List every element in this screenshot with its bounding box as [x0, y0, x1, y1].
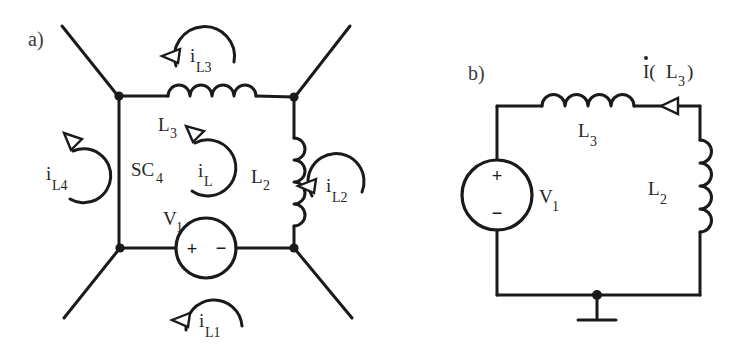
v1-plus-sign-panel-a: +: [187, 239, 198, 259]
branch-current-il3-suffix: ): [687, 61, 693, 83]
current-il2-subscript: L2: [332, 190, 348, 205]
v1-label-panel-b: V: [539, 186, 553, 207]
wire-top-right-segment: [256, 96, 294, 97]
lead-bottom-left: [64, 248, 120, 318]
current-il3-symbol: i: [190, 45, 195, 66]
current-il1-arrowhead: [172, 313, 190, 327]
branch-current-il3-marker: [661, 98, 678, 114]
inductor-l2-coils-panel-a: [294, 138, 305, 226]
branch-current-il3-prefix: I(: [643, 61, 656, 83]
inductor-l3-coils-panel-b: [542, 95, 634, 107]
figure-canvas: a) + − V 1 L 3 L 2: [0, 0, 740, 350]
node-bottom-left: [115, 243, 124, 252]
node-bottom-right: [289, 243, 298, 252]
current-loop-il1: i L1: [172, 300, 242, 340]
branch-current-il3-label: I( L 3 ): [643, 56, 693, 89]
current-il3-subscript: L3: [196, 60, 212, 75]
lead-top-left: [62, 26, 118, 96]
inductor-l3-coils-panel-a: [168, 85, 256, 96]
current-il-subscript: L: [204, 174, 213, 189]
v1-plus-sign-panel-b: +: [492, 166, 503, 186]
current-il2-symbol: i: [326, 175, 331, 196]
inductor-l2-label-panel-b: L: [648, 178, 660, 199]
lead-bottom-right: [294, 248, 352, 318]
panel-a: a) + − V 1 L 3 L 2: [28, 26, 364, 340]
inductor-l2-label-panel-a: L: [251, 166, 263, 187]
supernode-sc4-label: SC: [131, 159, 154, 180]
branch-current-il3-arrowhead: [661, 98, 678, 114]
v1-minus-sign-panel-a: −: [216, 238, 227, 258]
inductor-l3-label-panel-a: L: [158, 114, 170, 135]
current-il1-symbol: i: [199, 310, 204, 331]
branch-current-il3-symbol: L: [666, 61, 678, 82]
panel-a-label: a): [28, 28, 44, 51]
current-il4-subscript: L4: [52, 178, 68, 193]
supernode-sc4-label-subscript: 4: [156, 171, 163, 186]
voltage-source-v1-circle-panel-a: [176, 218, 236, 278]
inductor-l3-label-subscript-panel-b: 3: [590, 134, 597, 149]
current-il1-subscript: L1: [205, 325, 221, 340]
inductor-l3-label-subscript-panel-a: 3: [170, 126, 177, 141]
current-il4-arc: [70, 149, 111, 203]
panel-b-label: b): [468, 62, 485, 85]
current-loop-il2: i L2: [298, 154, 364, 205]
branch-current-il3-subscript: 3: [678, 74, 685, 89]
current-il-symbol: i: [198, 160, 203, 181]
inductor-l3-label-panel-b: L: [578, 120, 590, 141]
current-loop-il4: i L4: [46, 133, 111, 203]
current-il3-arrowhead: [162, 49, 180, 63]
v1-label-subscript-panel-a: 1: [176, 220, 183, 235]
current-il4-arrowhead: [64, 133, 82, 150]
panel-b: b) + − V 1 L 3 L 2: [462, 56, 712, 320]
inductor-l2-coils-panel-b: [700, 140, 712, 232]
inductor-l2-label-subscript-panel-a: 2: [263, 178, 270, 193]
v1-label-subscript-panel-b: 1: [552, 199, 559, 214]
v1-minus-sign-panel-b: −: [492, 203, 503, 223]
current-il4-symbol: i: [46, 163, 51, 184]
v1-label-panel-a: V: [163, 208, 177, 229]
lead-top-right: [294, 26, 350, 98]
current-loop-il3: i L3: [162, 27, 234, 75]
branch-current-il3-dot-accent: [644, 56, 648, 60]
current-loop-il: i L: [186, 126, 236, 196]
node-top-right: [289, 92, 298, 101]
inductor-l2-label-subscript-panel-b: 2: [660, 192, 667, 207]
node-top-left: [114, 91, 123, 100]
circuit-diagram-svg: a) + − V 1 L 3 L 2: [0, 0, 740, 350]
